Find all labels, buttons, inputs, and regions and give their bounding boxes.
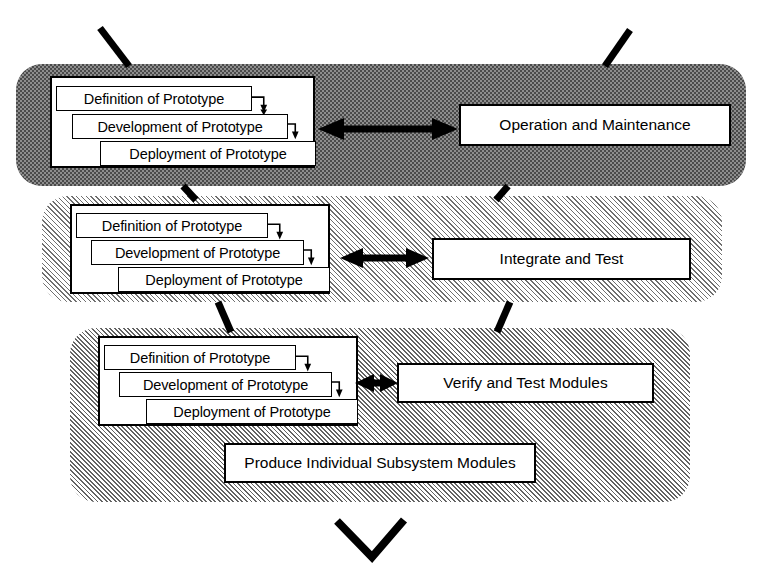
connector-top-right-stroke <box>605 30 630 66</box>
prototype-cycle-group-band3: Definition of Prototype Development of P… <box>98 336 358 426</box>
proto-step-definition[interactable]: Definition of Prototype <box>76 213 268 238</box>
connector-bottom-chevron-icon <box>337 520 404 557</box>
proto-step-development[interactable]: Development of Prototype <box>119 372 332 397</box>
activity-integrate-and-test[interactable]: Integrate and Test <box>432 238 691 280</box>
proto-step-development-label: Development of Prototype <box>143 377 308 393</box>
activity-produce-individual-subsystem-modules[interactable]: Produce Individual Subsystem Modules <box>224 443 536 483</box>
activity-operation-and-maintenance[interactable]: Operation and Maintenance <box>459 104 731 146</box>
proto-step-deployment[interactable]: Deployment of Prototype <box>118 267 330 292</box>
proto-step-definition[interactable]: Definition of Prototype <box>104 345 296 370</box>
proto-step-deployment[interactable]: Deployment of Prototype <box>100 141 316 166</box>
proto-step-development-label: Development of Prototype <box>115 245 280 261</box>
proto-step-definition-label: Definition of Prototype <box>102 218 242 234</box>
proto-step-development-label: Development of Prototype <box>97 119 262 135</box>
connector-top-left-stroke <box>100 28 129 66</box>
proto-step-deployment-label: Deployment of Prototype <box>173 404 330 420</box>
proto-step-deployment[interactable]: Deployment of Prototype <box>146 399 358 424</box>
proto-step-deployment-label: Deployment of Prototype <box>145 272 302 288</box>
prototype-cycle-group-band2: Definition of Prototype Development of P… <box>70 204 330 294</box>
activity-verify-and-test-modules[interactable]: Verify and Test Modules <box>397 363 654 403</box>
proto-step-development[interactable]: Development of Prototype <box>91 240 304 265</box>
activity-integrate-and-test-label: Integrate and Test <box>500 250 624 268</box>
diagram-canvas: Definition of Prototype Development of P… <box>0 0 762 576</box>
proto-step-deployment-label: Deployment of Prototype <box>129 146 286 162</box>
activity-produce-individual-subsystem-modules-label: Produce Individual Subsystem Modules <box>244 454 515 472</box>
proto-step-development[interactable]: Development of Prototype <box>72 114 288 139</box>
proto-step-definition[interactable]: Definition of Prototype <box>56 86 252 111</box>
activity-operation-and-maintenance-label: Operation and Maintenance <box>499 116 690 134</box>
proto-step-definition-label: Definition of Prototype <box>84 91 224 107</box>
activity-verify-and-test-modules-label: Verify and Test Modules <box>443 374 607 392</box>
prototype-cycle-group-band1: Definition of Prototype Development of P… <box>50 76 315 168</box>
proto-step-definition-label: Definition of Prototype <box>130 350 270 366</box>
